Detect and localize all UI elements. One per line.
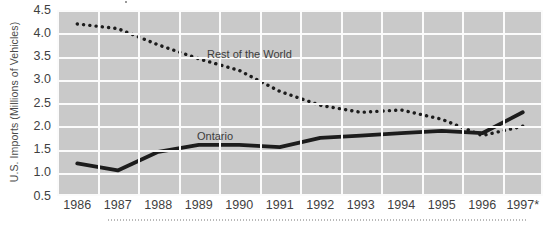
x-axis-tick-label: 1989 — [176, 198, 222, 212]
x-axis-tick-label: 1993 — [338, 198, 384, 212]
y-axis-tick-label: 2.5 — [21, 97, 51, 110]
y-axis-tick-label: 0.5 — [21, 190, 51, 203]
gridline-vertical — [341, 10, 343, 196]
y-axis-tick-label: 2.0 — [21, 120, 51, 133]
chart-container: U.S. Imports (Millions of Vehicles) 0.51… — [0, 0, 552, 226]
gridline-vertical — [219, 10, 221, 196]
gridline-vertical — [179, 10, 181, 196]
x-axis-tick-label: 1992 — [297, 198, 343, 212]
gridline-vertical — [541, 10, 543, 196]
y-axis-tick-label: 1.0 — [21, 166, 51, 179]
x-axis-tick-label: 1996 — [459, 198, 505, 212]
x-axis-tick-label: 1987 — [95, 198, 141, 212]
gridline-vertical — [98, 10, 100, 196]
plot-area — [57, 10, 543, 196]
y-axis-tick-label: 3.5 — [21, 50, 51, 63]
y-axis-tick-label: 1.5 — [21, 143, 51, 156]
y-axis-tick-labels: 0.51.01.52.02.53.03.54.04.5 — [18, 0, 51, 226]
x-axis-tick-label: 1994 — [378, 198, 424, 212]
gridline-vertical — [462, 10, 464, 196]
gridline-vertical — [381, 10, 383, 196]
x-axis-tick-label: 1990 — [216, 198, 262, 212]
series-label-rest-of-the-world: Rest of the World — [207, 48, 292, 60]
gridline-vertical — [422, 10, 424, 196]
gridline-vertical — [503, 10, 505, 196]
gridline-vertical — [57, 10, 59, 196]
gridline-vertical — [260, 10, 262, 196]
y-axis-tick-label: 4.0 — [21, 27, 51, 40]
y-axis-tick-label: 4.5 — [21, 4, 51, 17]
x-axis-tick-label: 1986 — [54, 198, 100, 212]
series-label-ontario: Ontario — [197, 130, 233, 142]
gridline-vertical — [138, 10, 140, 196]
x-axis-tick-label: 1995 — [419, 198, 465, 212]
x-axis-tick-label: 1988 — [135, 198, 181, 212]
bottom-dotted-rule — [108, 219, 528, 221]
gridline-vertical — [300, 10, 302, 196]
x-axis-tick-label: 1991 — [257, 198, 303, 212]
y-axis-tick-label: 3.0 — [21, 73, 51, 86]
x-axis-tick-label: 1997* — [500, 198, 546, 212]
decorative-speck — [125, 1, 127, 3]
